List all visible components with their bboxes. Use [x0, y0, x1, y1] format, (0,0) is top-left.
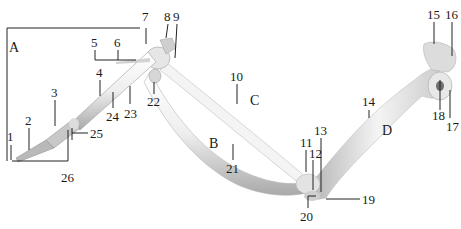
label-25: 25	[90, 126, 103, 141]
ulna-bone	[144, 72, 310, 195]
label-19: 19	[362, 192, 375, 207]
diagram-canvas: A B C D 1 2 3 4 5 6 7 8 9 10 11 12 13 14…	[0, 0, 461, 229]
label-4: 4	[96, 65, 103, 80]
region-label-b: B	[209, 136, 218, 151]
label-16: 16	[445, 7, 459, 22]
label-22: 22	[147, 94, 160, 109]
label-8: 8	[164, 9, 171, 24]
label-18: 18	[432, 108, 445, 123]
label-14: 14	[362, 94, 376, 109]
label-15: 15	[427, 7, 440, 22]
label-9: 9	[173, 9, 180, 24]
label-2: 2	[25, 113, 32, 128]
label-5: 5	[91, 35, 98, 50]
wing-skeleton-diagram: A B C D 1 2 3 4 5 6 7 8 9 10 11 12 13 14…	[0, 0, 461, 229]
label-17: 17	[446, 119, 460, 134]
label-3: 3	[51, 85, 58, 100]
label-6: 6	[114, 35, 121, 50]
label-7: 7	[142, 9, 149, 24]
label-12: 12	[309, 146, 322, 161]
label-13: 13	[314, 123, 327, 138]
label-26: 26	[61, 170, 75, 185]
label-23: 23	[124, 106, 137, 121]
region-label-c: C	[250, 93, 259, 108]
label-1: 1	[7, 129, 14, 144]
label-24: 24	[106, 109, 120, 124]
region-label-d: D	[382, 123, 392, 138]
label-21: 21	[226, 161, 239, 176]
label-10: 10	[230, 69, 243, 84]
region-label-a: A	[9, 40, 20, 55]
label-20: 20	[300, 209, 313, 224]
